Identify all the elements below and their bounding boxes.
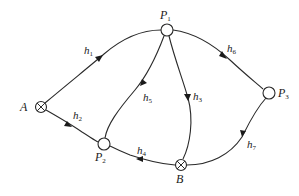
node-p3 <box>263 87 275 99</box>
label-p2: P2 <box>94 150 106 165</box>
edge-h2 <box>46 110 98 142</box>
arrow-h2-icon <box>64 121 72 127</box>
node-p2 <box>98 138 110 150</box>
edge-h6 <box>173 30 263 89</box>
node-a <box>36 102 47 113</box>
network-flow-diagram: P1 P2 P3 A B h1 h2 h3 h4 h5 h6 h7 <box>0 0 299 196</box>
arrow-h5-icon <box>140 79 147 86</box>
edge-h7 <box>187 98 266 165</box>
node-b <box>176 160 187 171</box>
label-h2: h2 <box>73 109 83 123</box>
arrowheads <box>64 51 246 162</box>
label-h1: h1 <box>84 44 94 58</box>
node-p1 <box>161 24 173 36</box>
label-h4: h4 <box>137 144 147 158</box>
arrow-h3-icon <box>184 94 191 101</box>
label-h3: h3 <box>193 90 203 104</box>
edge-h5 <box>105 36 164 138</box>
label-p1: P1 <box>159 8 171 23</box>
label-b: B <box>176 172 184 186</box>
label-p3: P3 <box>277 86 289 101</box>
label-h5: h5 <box>143 91 153 105</box>
label-h6: h6 <box>227 42 237 56</box>
label-h7: h7 <box>247 138 257 152</box>
label-a: A <box>19 100 28 114</box>
